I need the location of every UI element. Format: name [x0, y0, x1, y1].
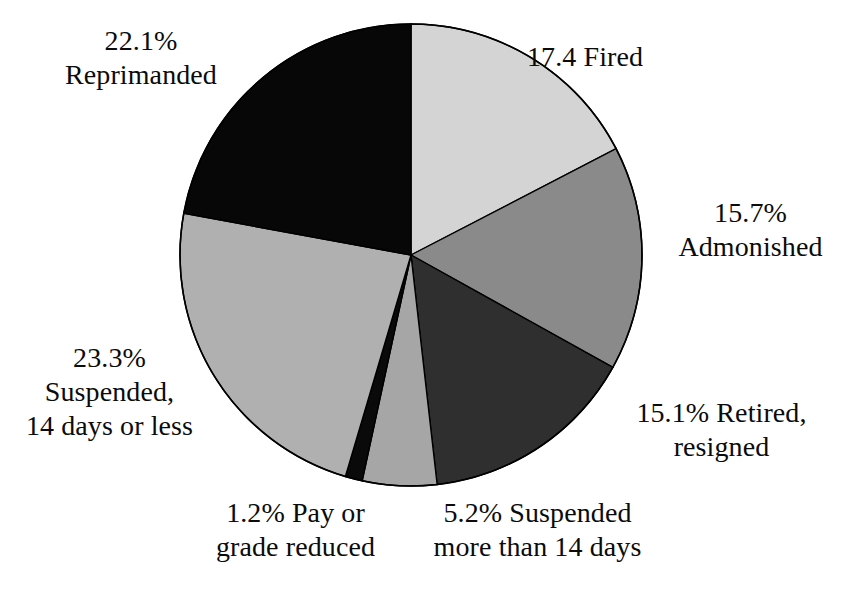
slice-label-reprimanded: 22.1% Reprimanded — [6, 24, 276, 92]
slice-label-pay-or-grade-reduced: 1.2% Pay or grade reduced — [178, 496, 413, 564]
slice-label-fired: 17.4 Fired — [527, 40, 747, 74]
slice-label-suspended-more-than-14-days: 5.2% Suspended more than 14 days — [405, 496, 670, 564]
slice-label-suspended-14-days-or-less: 23.3% Suspended, 14 days or less — [2, 341, 217, 443]
slice-label-retired-resigned: 15.1% Retired, resigned — [590, 396, 853, 464]
pie-chart-figure: 22.1% Reprimanded 17.4 Fired 15.7% Admon… — [0, 0, 853, 597]
pie-slice-group — [180, 24, 642, 486]
slice-label-admonished: 15.7% Admonished — [648, 196, 853, 264]
